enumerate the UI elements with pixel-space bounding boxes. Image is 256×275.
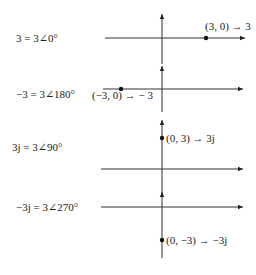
- point-label-panel-3: (0, 3) → 3j: [166, 132, 215, 144]
- point-label-panel-2: (−3, 0) → − 3: [92, 89, 153, 101]
- equation-panel-3: 3j = 3∠90°: [12, 141, 62, 154]
- equation-panel-1: 3 = 3∠0°: [16, 32, 58, 45]
- equation-panel-4: −3j = 3∠270°: [16, 201, 78, 214]
- equation-panel-2: −3 = 3∠180°: [16, 88, 75, 101]
- point-panel-3: [160, 136, 164, 140]
- point-panel-4: [160, 238, 164, 242]
- point-panel-1: [204, 36, 208, 40]
- axes-panel-4: [101, 192, 243, 258]
- point-label-panel-1: (3, 0) → 3: [205, 20, 251, 32]
- point-label-panel-4: (0, −3) → −3j: [166, 234, 227, 246]
